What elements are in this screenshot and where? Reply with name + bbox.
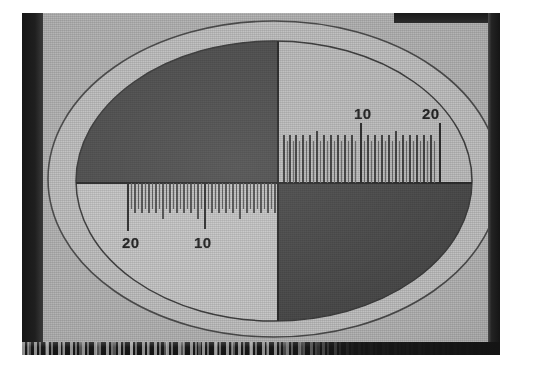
lower-left-scale-fine-ticks: [132, 183, 272, 209]
photo-edge-right: [488, 13, 500, 355]
screenshot-root: 10 20 20 10: [0, 0, 547, 383]
photograph: 10 20 20 10: [22, 13, 500, 355]
reticle-svg: [22, 13, 500, 355]
photo-edge-top-right: [394, 13, 500, 23]
scale-label-lower-left-20: 20: [122, 235, 140, 250]
scale-label-lower-left-10: 10: [194, 235, 212, 250]
scale-label-upper-right-20: 20: [422, 106, 440, 121]
photo-edge-bottom-fade: [272, 342, 500, 355]
reticle-graticule: [22, 13, 500, 355]
photo-edge-left: [22, 13, 43, 345]
scale-label-upper-right-10: 10: [354, 106, 372, 121]
